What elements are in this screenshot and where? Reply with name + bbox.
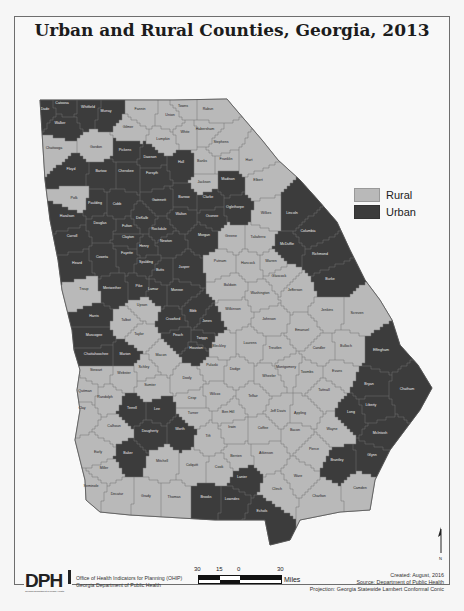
county-label: Pulaski bbox=[206, 363, 218, 367]
county-label: Thomas bbox=[168, 495, 181, 499]
county-label: Screven bbox=[350, 311, 363, 315]
county-label: Stewart bbox=[90, 368, 102, 372]
county-label: Wilkes bbox=[261, 211, 272, 215]
county-label: Colquitt bbox=[186, 463, 198, 467]
county-label: Banks bbox=[197, 159, 207, 163]
county-label: Wheeler bbox=[262, 374, 276, 378]
county-label: Turner bbox=[188, 411, 199, 415]
county-label: Troup bbox=[79, 287, 88, 291]
county-label: Jackson bbox=[197, 180, 210, 184]
north-arrow-icon: N bbox=[436, 525, 446, 561]
county-label: Cherokee bbox=[118, 169, 134, 173]
county-label: Hall bbox=[178, 160, 184, 164]
county-label: Ben Hill bbox=[222, 410, 235, 414]
county-label: Wilkinson bbox=[225, 307, 240, 311]
county-label: Twiggs bbox=[196, 336, 207, 340]
county-label: Echols bbox=[257, 509, 268, 513]
county-label: Bacon bbox=[290, 428, 300, 432]
county-label: Tift bbox=[206, 434, 211, 438]
county-label: Heard bbox=[72, 261, 82, 265]
county-label: Grady bbox=[141, 494, 151, 498]
county-label: Treutlen bbox=[268, 346, 281, 350]
county-label: Charlton bbox=[312, 494, 326, 498]
svg-text:N: N bbox=[439, 556, 442, 561]
county-label: Spalding bbox=[139, 260, 153, 264]
county-label: McDuffie bbox=[280, 242, 294, 246]
county-label: Richmond bbox=[312, 252, 328, 256]
county-label: Fayette bbox=[121, 251, 133, 255]
county-label: Dawson bbox=[144, 155, 157, 159]
county-label: Calhoun bbox=[107, 424, 120, 428]
county-label: Laurens bbox=[244, 341, 257, 345]
county-label: Lumpkin bbox=[156, 137, 170, 141]
county-label: Jenkins bbox=[321, 308, 333, 312]
map-credits: Created: August, 2016 Source: Department… bbox=[310, 572, 444, 592]
county-label: Stephens bbox=[213, 140, 228, 144]
county-label: Bartow bbox=[95, 169, 107, 173]
county-label: DeKalb bbox=[136, 216, 148, 220]
county-label: Dougherty bbox=[142, 429, 159, 433]
county-label: Camden bbox=[353, 486, 367, 490]
projection: Projection: Georgia Statewide Lambert Co… bbox=[310, 586, 444, 593]
county-label: Barrow bbox=[178, 195, 190, 199]
county-label: Gordon bbox=[90, 145, 102, 149]
county-label: Lowndes bbox=[225, 497, 240, 501]
county-label: Rockdale bbox=[152, 227, 167, 231]
legend-label-rural: Rural bbox=[386, 189, 412, 201]
legend-item-urban: Urban bbox=[354, 203, 416, 220]
county-label: Cobb bbox=[113, 202, 122, 206]
org-line-2: Georgia Department of Public Health bbox=[76, 582, 182, 589]
county-label: Ware bbox=[294, 474, 302, 478]
county-cells bbox=[38, 96, 437, 549]
county-label: Union bbox=[165, 113, 174, 117]
county-label: Franklin bbox=[220, 157, 233, 161]
created-date: Created: August, 2016 bbox=[310, 572, 444, 579]
county-label: Long bbox=[347, 410, 355, 414]
county-label: Pierce bbox=[309, 447, 319, 451]
rural-swatch bbox=[354, 188, 380, 202]
county-label: Bleckley bbox=[212, 344, 226, 348]
county-label: Jones bbox=[202, 319, 212, 323]
legend-item-rural: Rural bbox=[354, 186, 416, 203]
county-label: Baker bbox=[123, 451, 133, 455]
legend-label-urban: Urban bbox=[386, 206, 416, 218]
county-label: Habersham bbox=[196, 127, 215, 131]
county-label: Lincoln bbox=[286, 211, 297, 215]
data-source: Source: Department of Public Health bbox=[310, 579, 444, 586]
county-label: Toombs bbox=[301, 370, 314, 374]
county-label: Monroe bbox=[171, 288, 183, 292]
county-label: Pickens bbox=[119, 148, 132, 152]
north-arrow: N bbox=[436, 525, 446, 565]
county-label: Crawford bbox=[166, 317, 181, 321]
county-label: Gilmer bbox=[123, 125, 134, 129]
county-label: Burke bbox=[325, 277, 334, 281]
county-label: Newton bbox=[160, 239, 172, 243]
county-label: Fulton bbox=[122, 224, 132, 228]
county-label: Brantley bbox=[330, 458, 343, 462]
county-label: Johnson bbox=[262, 317, 276, 321]
county-label: Brooks bbox=[200, 495, 211, 499]
county-label: Terrell bbox=[127, 406, 137, 410]
county-label: Morgan bbox=[198, 233, 210, 237]
county-label: Glynn bbox=[367, 453, 376, 457]
county-label: Clayton bbox=[122, 235, 134, 239]
county-label: Berrien bbox=[230, 454, 242, 458]
scale-bar: 30 15 0 30 Miles bbox=[194, 566, 294, 584]
county-label: Catoosa bbox=[55, 101, 68, 105]
county-label: Taliaferro bbox=[251, 235, 266, 239]
legend: Rural Urban bbox=[354, 186, 416, 220]
county-label: Quitman bbox=[78, 389, 92, 393]
county-label: Clinch bbox=[272, 487, 282, 491]
county-label: Elbert bbox=[253, 178, 262, 182]
county-label: Jefferson bbox=[288, 288, 303, 292]
county-label: Candler bbox=[313, 346, 326, 350]
georgia-county-map: DadeCatoosaWhitfieldMurrayWalkerFanninTo… bbox=[0, 0, 464, 611]
county-label: Floyd bbox=[67, 167, 76, 171]
scale-unit: Miles bbox=[284, 576, 300, 583]
county-label: Bibb bbox=[189, 309, 196, 313]
county-label: Carroll bbox=[67, 234, 78, 238]
scale-tick: 15 bbox=[216, 566, 223, 572]
county-label: Wayne bbox=[326, 427, 337, 431]
county-label: Paulding bbox=[88, 201, 102, 205]
county-label: Chattooga bbox=[46, 146, 63, 150]
